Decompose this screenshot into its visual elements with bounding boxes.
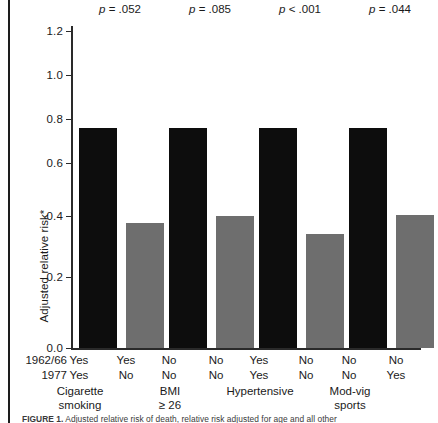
y-tick-label: 0.2 — [23, 271, 63, 283]
x-axis-baseline — [71, 348, 421, 350]
cell-row2: No — [283, 369, 329, 381]
bar-black[interactable] — [259, 128, 297, 348]
bar-gray[interactable] — [216, 216, 254, 348]
bar-black[interactable] — [79, 128, 117, 348]
y-tick-label: 0.8 — [23, 113, 63, 125]
category-table: 1962/66 1977 Yes Yes Yes No Cigarette sm… — [0, 352, 430, 414]
cell-row1: Yes — [56, 354, 102, 366]
group-title-mod-vig-sports: Mod-vig sports — [285, 384, 415, 412]
bar-group-mod-vig-sports: p = .044 — [349, 31, 431, 348]
figure-caption: FIGURE 1. Adjusted relative risk of deat… — [22, 414, 422, 423]
cell-row2: Yes — [56, 369, 102, 381]
y-tick-label: 1.0 — [23, 69, 63, 81]
cell-row2: No — [193, 369, 239, 381]
cell-row1: Yes — [236, 354, 282, 366]
cell-row2: Yes — [236, 369, 282, 381]
cell-row2: No — [146, 369, 192, 381]
y-tick-label: 0.4 — [23, 210, 63, 222]
cell-row1: No — [193, 354, 239, 366]
bar-group-bmi: p = .085 — [169, 31, 251, 348]
figure-caption-label: FIGURE 1. — [22, 414, 63, 423]
plot-area: p = .052 p = .085 p < .001 p = .044 — [71, 31, 421, 348]
cell-row2: Yes — [373, 369, 419, 381]
bar-gray[interactable] — [306, 234, 344, 348]
cell-row1: No — [326, 354, 372, 366]
p-value-text: = .044 — [375, 3, 411, 15]
cell-row2: No — [326, 369, 372, 381]
p-value-text: = .085 — [195, 3, 231, 15]
p-value-text: < .001 — [285, 3, 321, 15]
bar-group-hypertensive: p < .001 — [259, 31, 341, 348]
y-tick-label: 0.6 — [23, 157, 63, 169]
cell-row1: No — [283, 354, 329, 366]
cell-row1: Yes — [103, 354, 149, 366]
cell-row2: No — [103, 369, 149, 381]
bar-gray[interactable] — [126, 223, 164, 348]
cell-row1: No — [146, 354, 192, 366]
bar-black[interactable] — [349, 128, 387, 348]
figure-caption-text: Adjusted relative risk of death, relativ… — [63, 414, 336, 423]
p-value-annotation: p = .044 — [330, 3, 438, 15]
p-value-text: = .052 — [105, 3, 141, 15]
cell-row1: No — [373, 354, 419, 366]
bar-black[interactable] — [169, 128, 207, 348]
y-tick-label: 1.2 — [23, 25, 63, 37]
bar-group-cigarette-smoking: p = .052 — [79, 31, 161, 348]
bar-gray[interactable] — [396, 215, 434, 348]
